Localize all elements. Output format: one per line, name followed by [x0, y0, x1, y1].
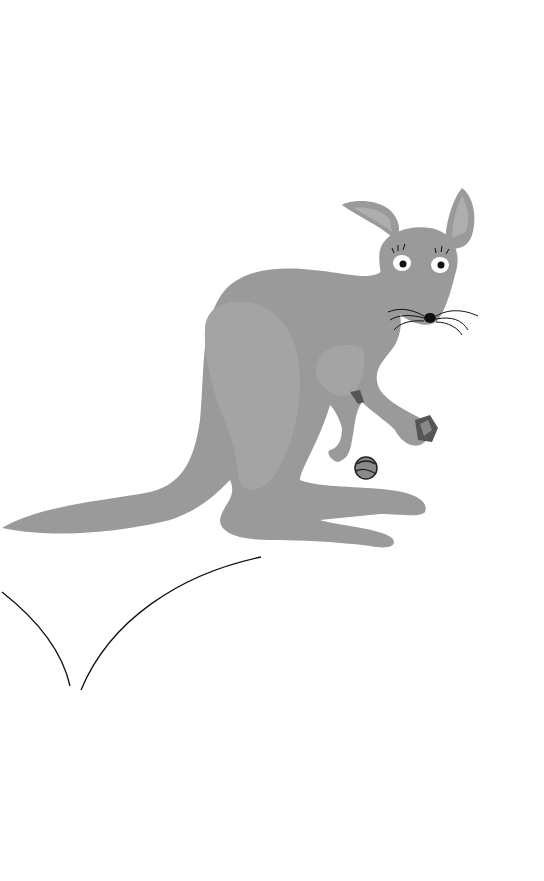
ground-curves [2, 557, 261, 690]
kangaroo [2, 188, 478, 547]
right-curve [81, 557, 261, 690]
nose [424, 313, 436, 323]
left-ear [342, 201, 399, 240]
kangaroo-illustration [0, 0, 544, 881]
ball [355, 457, 377, 479]
left-pupil [400, 261, 407, 268]
right-pupil [438, 262, 445, 269]
left-curve [2, 592, 70, 686]
